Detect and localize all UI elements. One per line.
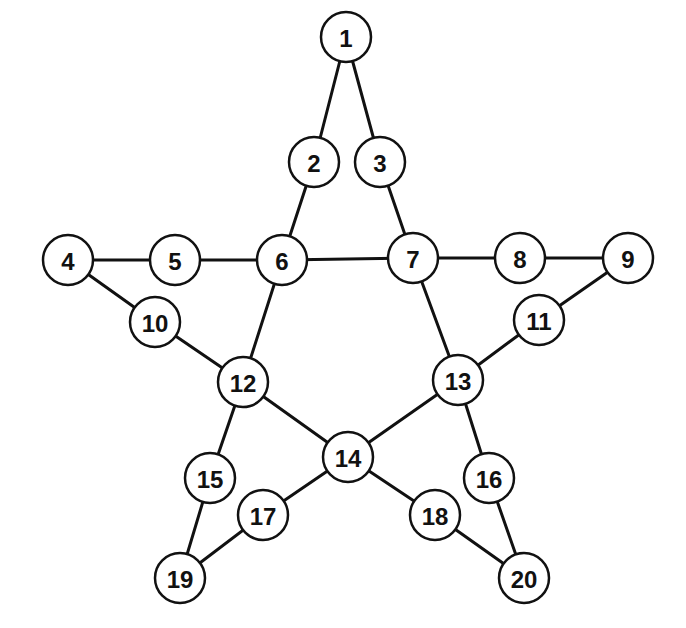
node-19: 19: [155, 553, 205, 603]
node-18: 18: [410, 490, 460, 540]
node-label: 2: [307, 150, 320, 177]
node-2: 2: [289, 137, 339, 187]
star-graph-diagram: 1234567891011121314151617181920: [0, 0, 686, 628]
node-label: 12: [230, 370, 257, 397]
node-label: 9: [621, 246, 634, 273]
graph-canvas: 1234567891011121314151617181920: [0, 0, 686, 628]
node-12: 12: [218, 357, 268, 407]
node-20: 20: [499, 553, 549, 603]
node-label: 11: [526, 308, 551, 335]
node-6: 6: [257, 235, 307, 285]
node-label: 18: [422, 503, 449, 530]
node-1: 1: [321, 12, 371, 62]
node-label: 14: [335, 445, 362, 472]
node-3: 3: [355, 137, 405, 187]
node-4: 4: [43, 235, 93, 285]
nodes-layer: 1234567891011121314151617181920: [43, 12, 653, 603]
node-label: 3: [373, 150, 386, 177]
node-label: 20: [511, 566, 538, 593]
node-7: 7: [388, 233, 438, 283]
node-label: 17: [250, 503, 277, 530]
node-label: 6: [275, 248, 288, 275]
node-5: 5: [150, 235, 200, 285]
node-label: 1: [339, 25, 352, 52]
node-13: 13: [433, 355, 483, 405]
node-9: 9: [603, 233, 653, 283]
node-16: 16: [464, 453, 514, 503]
node-17: 17: [238, 490, 288, 540]
node-label: 7: [406, 246, 419, 273]
node-label: 4: [61, 248, 75, 275]
node-label: 15: [197, 466, 224, 493]
node-10: 10: [130, 297, 180, 347]
node-15: 15: [185, 453, 235, 503]
node-label: 8: [513, 246, 526, 273]
node-8: 8: [495, 233, 545, 283]
node-label: 16: [476, 466, 503, 493]
node-label: 10: [142, 310, 169, 337]
node-11: 11: [514, 295, 564, 345]
node-14: 14: [323, 432, 373, 482]
node-label: 13: [445, 368, 472, 395]
node-label: 5: [168, 248, 181, 275]
node-label: 19: [167, 566, 194, 593]
